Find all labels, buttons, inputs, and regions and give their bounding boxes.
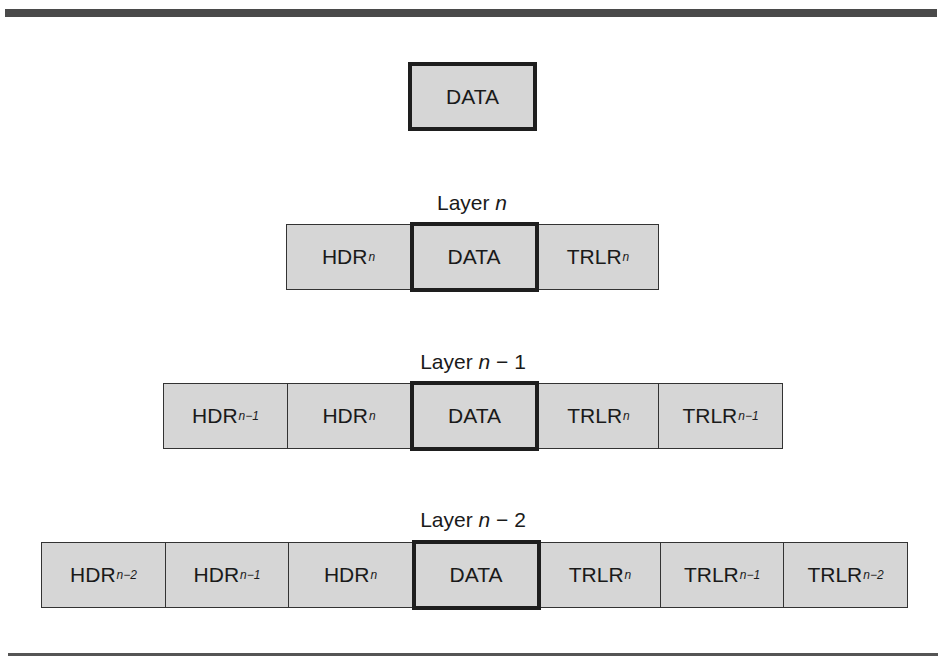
cell-subscript: n−1 [740, 568, 760, 582]
cell-label: DATA [450, 563, 503, 587]
data-cell: DATA [410, 222, 539, 292]
trailer-cell: TRLRn [537, 224, 659, 290]
cell-label: DATA [448, 404, 501, 428]
data-cell: DATA [410, 381, 539, 451]
cell-subscript: n−1 [738, 409, 758, 423]
layer-n-2-frame: HDRn−2 HDRn−1 HDRn DATA TRLRn TRLRn−1 TR… [41, 542, 908, 608]
cell-subscript: n [368, 250, 375, 264]
cell-label: TRLR [567, 245, 622, 269]
bottom-rule [8, 653, 938, 656]
cell-label: HDR [192, 404, 238, 428]
layer-n-1-frame: HDRn−1 HDRn DATA TRLRn TRLRn−1 [163, 383, 783, 449]
cell-subscript: n [370, 568, 377, 582]
header-cell: HDRn−2 [41, 542, 166, 608]
data-cell: DATA [412, 540, 541, 610]
cell-label: DATA [448, 245, 501, 269]
trailer-cell: TRLRn−1 [658, 383, 783, 449]
trailer-cell: TRLRn [538, 383, 660, 449]
cell-label: HDR [322, 404, 368, 428]
header-cell: HDRn [288, 542, 413, 608]
cell-label: TRLR [569, 563, 624, 587]
cell-subscript: n−1 [239, 409, 259, 423]
cell-label: TRLR [567, 404, 622, 428]
cell-subscript: n [623, 250, 630, 264]
cell-label: TRLR [807, 563, 862, 587]
top-rule [5, 9, 937, 17]
layer-label-suffix: − 1 [490, 350, 526, 373]
cell-label: TRLR [682, 404, 737, 428]
cell-label: HDR [194, 563, 240, 587]
cell-label: TRLR [684, 563, 739, 587]
layer-label-var: n [479, 350, 491, 373]
header-cell: HDRn [286, 224, 411, 290]
header-cell: HDRn−1 [163, 383, 288, 449]
cell-subscript: n [369, 409, 376, 423]
layer-label-var: n [495, 191, 507, 214]
header-cell: HDRn−1 [165, 542, 290, 608]
cell-label: HDR [322, 245, 368, 269]
trailer-cell: TRLRn−2 [783, 542, 908, 608]
layer-label-prefix: Layer [437, 191, 495, 214]
layer-n-frame: HDRn DATA TRLRn [286, 224, 659, 290]
layer-label-prefix: Layer [420, 508, 478, 531]
layer-label-n-1: Layer n − 1 [323, 350, 623, 374]
layer-label-n: Layer n [322, 191, 622, 215]
trailer-cell: TRLRn [539, 542, 661, 608]
cell-label: HDR [324, 563, 370, 587]
cell-subscript: n [625, 568, 632, 582]
layer-label-n-2: Layer n − 2 [323, 508, 623, 532]
header-cell: HDRn [287, 383, 412, 449]
cell-subscript: n [623, 409, 630, 423]
layer-label-suffix: − 2 [490, 508, 526, 531]
layer-label-prefix: Layer [420, 350, 478, 373]
layer-label-var: n [479, 508, 491, 531]
data-block-label: DATA [446, 85, 499, 109]
cell-subscript: n−1 [240, 568, 260, 582]
cell-subscript: n−2 [863, 568, 883, 582]
cell-label: HDR [70, 563, 116, 587]
data-block: DATA [408, 62, 537, 131]
cell-subscript: n−2 [117, 568, 137, 582]
trailer-cell: TRLRn−1 [660, 542, 785, 608]
